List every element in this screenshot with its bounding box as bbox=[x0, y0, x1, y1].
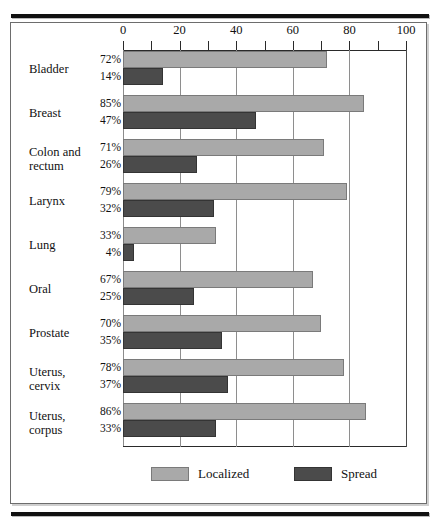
bar-localized bbox=[123, 359, 344, 376]
legend-label: Spread bbox=[341, 466, 377, 482]
category-label: Breast bbox=[29, 106, 105, 120]
bar-localized bbox=[123, 51, 327, 68]
category-label: Bladder bbox=[29, 62, 105, 76]
bar-spread bbox=[123, 288, 194, 305]
bar-localized bbox=[123, 227, 216, 244]
bar-group: Uterus,cervix78%37% bbox=[11, 359, 428, 403]
bar-group: Uterus,corpus86%33% bbox=[11, 403, 428, 447]
legend-item-localized: Localized bbox=[151, 466, 249, 482]
bar-group: Colon andrectum71%26% bbox=[11, 139, 428, 183]
bar-chart: 020406080100 Bladder72%14%Breast85%47%Co… bbox=[11, 23, 428, 505]
x-axis-tick bbox=[378, 41, 379, 50]
bar-spread bbox=[123, 332, 222, 349]
bar-value-label: 32% bbox=[95, 203, 121, 214]
x-tick-label: 0 bbox=[120, 23, 126, 38]
bar-group: Oral67%25% bbox=[11, 271, 428, 315]
bar-group: Bladder72%14% bbox=[11, 51, 428, 95]
bar-value-label: 79% bbox=[95, 186, 121, 197]
x-tick-label: 20 bbox=[173, 23, 186, 38]
bar-spread bbox=[123, 376, 228, 393]
bottom-decorative-rule bbox=[11, 512, 429, 516]
bar-localized bbox=[123, 403, 366, 420]
category-label: Lung bbox=[29, 238, 105, 252]
category-label: Uterus,cervix bbox=[29, 365, 105, 393]
bar-value-label: 85% bbox=[95, 98, 121, 109]
x-axis-tick bbox=[349, 41, 350, 50]
category-label: Uterus,corpus bbox=[29, 409, 105, 437]
bar-group: Breast85%47% bbox=[11, 95, 428, 139]
bar-localized bbox=[123, 95, 364, 112]
bar-group: Larynx79%32% bbox=[11, 183, 428, 227]
bar-spread bbox=[123, 420, 216, 437]
x-axis-tick bbox=[236, 41, 237, 50]
bar-spread bbox=[123, 68, 163, 85]
bar-localized bbox=[123, 183, 347, 200]
bar-value-label: 72% bbox=[95, 54, 121, 65]
bar-value-label: 70% bbox=[95, 318, 121, 329]
x-tick-label: 40 bbox=[230, 23, 243, 38]
x-axis-tick bbox=[293, 41, 294, 50]
x-tick-label: 100 bbox=[397, 23, 416, 38]
bar-value-label: 33% bbox=[95, 230, 121, 241]
bar-value-label: 35% bbox=[95, 335, 121, 346]
bar-value-label: 67% bbox=[95, 274, 121, 285]
bar-value-label: 86% bbox=[95, 406, 121, 417]
bar-value-label: 37% bbox=[95, 379, 121, 390]
legend-swatch-spread bbox=[294, 467, 332, 481]
bar-group: Lung33%4% bbox=[11, 227, 428, 271]
x-tick-label: 80 bbox=[343, 23, 356, 38]
legend-swatch-localized bbox=[151, 467, 189, 481]
bar-spread bbox=[123, 244, 134, 261]
x-axis-tick bbox=[406, 41, 407, 50]
top-decorative-rule bbox=[11, 14, 429, 18]
bar-value-label: 14% bbox=[95, 71, 121, 82]
bar-localized bbox=[123, 315, 321, 332]
bar-localized bbox=[123, 139, 324, 156]
bar-group: Prostate70%35% bbox=[11, 315, 428, 359]
x-tick-label: 60 bbox=[287, 23, 300, 38]
category-label: Oral bbox=[29, 282, 105, 296]
category-label: Larynx bbox=[29, 194, 105, 208]
x-axis-tick bbox=[180, 41, 181, 50]
bar-localized bbox=[123, 271, 313, 288]
chart-legend: LocalizedSpread bbox=[11, 466, 428, 486]
bar-value-label: 78% bbox=[95, 362, 121, 373]
bar-value-label: 25% bbox=[95, 291, 121, 302]
category-label: Prostate bbox=[29, 326, 105, 340]
x-axis-tick bbox=[208, 41, 209, 50]
bar-value-label: 47% bbox=[95, 115, 121, 126]
bar-spread bbox=[123, 112, 256, 129]
x-axis-tick bbox=[265, 41, 266, 50]
category-label: Colon andrectum bbox=[29, 145, 105, 173]
x-axis-tick bbox=[321, 41, 322, 50]
bar-value-label: 33% bbox=[95, 423, 121, 434]
legend-label: Localized bbox=[198, 466, 249, 482]
bar-value-label: 4% bbox=[95, 247, 121, 258]
bar-spread bbox=[123, 156, 197, 173]
bar-value-label: 26% bbox=[95, 159, 121, 170]
bar-value-label: 71% bbox=[95, 142, 121, 153]
x-axis-tick bbox=[123, 41, 124, 50]
legend-item-spread: Spread bbox=[294, 466, 377, 482]
figure-frame: 020406080100 Bladder72%14%Breast85%47%Co… bbox=[10, 22, 427, 504]
x-axis-tick bbox=[151, 41, 152, 50]
bar-spread bbox=[123, 200, 214, 217]
